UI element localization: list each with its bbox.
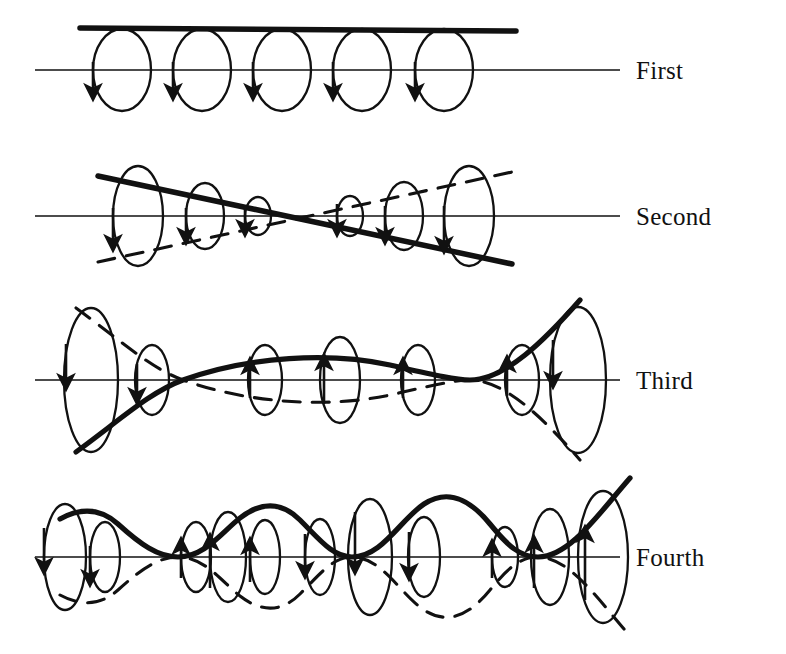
mode-group-third: Third — [35, 300, 693, 460]
orbit-arrows-third — [66, 340, 553, 404]
mode-label-third: Third — [636, 367, 693, 394]
mode-group-fourth: Fourth — [35, 478, 705, 636]
mode-envelope-solid-fourth — [60, 478, 630, 557]
mode-group-second: Second — [35, 166, 712, 266]
mode-label-fourth: Fourth — [636, 544, 705, 571]
mode-label-first: First — [636, 57, 683, 84]
mode-shape-figure: First Second — [0, 0, 786, 654]
mode-shape-svg: First Second — [0, 0, 786, 654]
orbit-arrows-first — [93, 62, 415, 92]
mode-envelope-dashed-fourth — [60, 557, 630, 636]
mode-label-second: Second — [636, 203, 712, 230]
mode-group-first: First — [35, 28, 683, 111]
